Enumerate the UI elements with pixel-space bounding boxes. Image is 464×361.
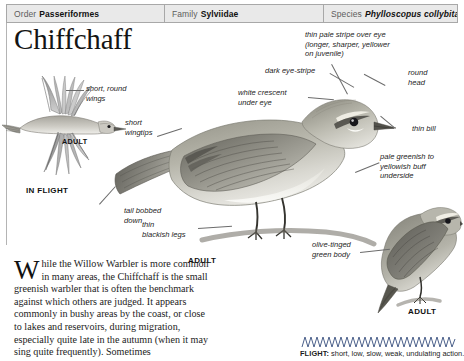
taxonomy-rank-label-species: Species (331, 9, 362, 19)
flight-panel: FLIGHT: short, low, slow, weak, undulati… (300, 334, 458, 359)
callout-round-head: round head (408, 68, 448, 87)
taxonomy-rank-label-order: Order (14, 9, 36, 19)
taxonomy-value-order: Passeriformes (39, 9, 99, 19)
flight-undulation-wave-icon (300, 334, 458, 349)
callout-thin-bill: thin bill (412, 124, 456, 134)
taxonomy-value-species: Phylloscopus collybita (365, 9, 457, 19)
flight-caption: FLIGHT: short, low, slow, weak, undulati… (300, 350, 458, 359)
callout-thin-blackish-legs: thin blackish legs (142, 220, 202, 239)
flight-caption-text: short, low, slow, weak, undulating actio… (329, 349, 464, 358)
stage-label-adult-flight: ADULT (62, 137, 88, 146)
stage-label-adult-perched: ADULT (408, 307, 436, 316)
taxonomy-cell-family: Family Sylviidae (165, 5, 324, 22)
taxonomy-header-bar: Order Passeriformes Family Sylviidae Spe… (6, 4, 458, 23)
stage-label-in-flight: IN FLIGHT (26, 186, 68, 195)
page-title: Chiffchaff (14, 25, 132, 54)
taxonomy-cell-species: Species Phylloscopus collybita (324, 5, 457, 22)
callout-dark-eye-stripe: dark eye-stripe (265, 66, 333, 76)
callout-thin-pale-stripe-over-eye: thin pale stripe over eye (longer, sharp… (305, 30, 409, 59)
description-text: hile the Willow Warbler is more common i… (14, 258, 209, 357)
taxonomy-cell-order: Order Passeriformes (7, 5, 165, 22)
callout-short-round-wings: short, round wings (86, 84, 156, 103)
illustration-adult-perched-small (368, 205, 463, 315)
taxonomy-rank-label-family: Family (172, 9, 198, 19)
callout-pale-greenish-underside: pale greenish to yellowish buff undersid… (380, 152, 458, 181)
callout-short-wingtips: short wingtips (125, 118, 173, 137)
flight-caption-label: FLIGHT: (300, 349, 329, 358)
taxonomy-value-family: Sylviidae (201, 9, 239, 19)
leader-line-short-round-wings (66, 90, 84, 91)
species-description-paragraph: While the Willow Warbler is more common … (14, 258, 210, 359)
callout-olive-tinged-green-body: olive-tinged green body (312, 240, 372, 259)
callout-white-crescent-under-eye: white crescent under eye (238, 88, 310, 107)
drop-cap-letter: W (14, 259, 41, 281)
